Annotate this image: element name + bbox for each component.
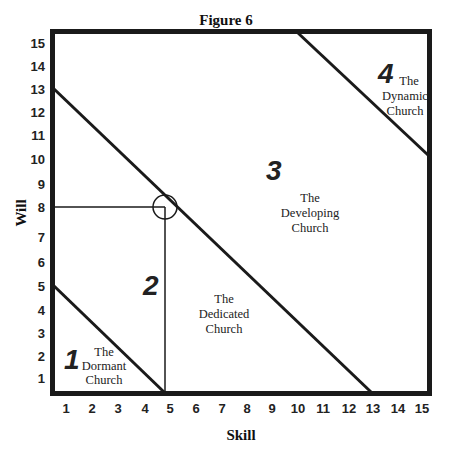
y-axis-title: Will <box>13 199 29 226</box>
x-tick: 6 <box>192 401 199 416</box>
y-tick: 5 <box>38 279 45 294</box>
x-tick: 3 <box>114 401 121 416</box>
region-label-line: Church <box>86 373 124 387</box>
x-tick: 2 <box>88 401 95 416</box>
x-tick: 14 <box>391 401 406 416</box>
figure-6-diagram: Figure 6 1 2 3 4 5 6 7 8 9 10 11 12 13 1… <box>0 0 452 452</box>
region-number: 4 <box>377 58 394 89</box>
x-tick: 9 <box>268 401 275 416</box>
y-tick: 13 <box>31 82 45 97</box>
region-label-line: Church <box>292 221 330 235</box>
region-label-line: The <box>300 191 320 205</box>
y-tick: 8 <box>38 200 45 215</box>
y-tick: 10 <box>31 152 45 167</box>
region-label-line: Dynamic <box>382 89 428 103</box>
figure-title: Figure 6 <box>199 12 253 28</box>
region-label-line: The <box>214 292 234 306</box>
region-number: 2 <box>142 270 159 301</box>
x-tick: 1 <box>62 401 69 416</box>
y-tick: 6 <box>38 255 45 270</box>
x-tick: 15 <box>415 401 429 416</box>
region-number: 3 <box>266 155 282 186</box>
y-tick: 2 <box>38 349 45 364</box>
x-axis-title: Skill <box>226 427 255 443</box>
y-tick: 12 <box>31 105 45 120</box>
x-axis-ticks: 1 2 3 4 5 6 7 8 9 10 11 12 13 14 15 <box>62 401 429 416</box>
x-tick: 13 <box>366 401 380 416</box>
region-label-line: Dedicated <box>199 307 250 321</box>
x-tick: 5 <box>166 401 173 416</box>
x-tick: 8 <box>243 401 250 416</box>
region-label-line: The <box>94 345 114 359</box>
y-tick: 3 <box>38 326 45 341</box>
region-label-line: Church <box>206 322 244 336</box>
region-label-line: The <box>399 74 419 88</box>
x-tick: 4 <box>141 401 149 416</box>
x-tick: 12 <box>342 401 356 416</box>
region-number: 1 <box>64 344 80 375</box>
y-axis-ticks: 1 2 3 4 5 6 7 8 9 10 11 12 13 14 15 <box>31 36 46 386</box>
x-tick: 11 <box>316 401 330 416</box>
y-tick: 9 <box>38 177 45 192</box>
region-label-line: Developing <box>281 206 340 220</box>
region-label-line: Dormant <box>82 359 127 373</box>
y-tick: 14 <box>31 59 46 74</box>
y-tick: 1 <box>38 371 45 386</box>
y-tick: 4 <box>38 303 46 318</box>
x-tick: 10 <box>291 401 305 416</box>
x-tick: 7 <box>218 401 225 416</box>
region-label-line: Church <box>387 104 425 118</box>
y-tick: 7 <box>38 230 45 245</box>
y-tick: 11 <box>31 128 45 143</box>
y-tick: 15 <box>31 36 45 51</box>
